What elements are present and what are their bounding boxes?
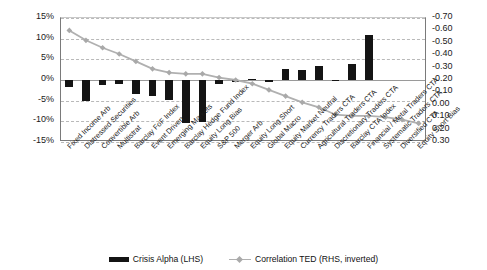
line-marker — [200, 71, 206, 77]
y-axis-right-tick: -0.50 — [432, 37, 472, 46]
y-axis-left-tick: 5% — [18, 53, 54, 62]
line-marker — [266, 87, 272, 93]
y-axis-left-tick: -5% — [18, 95, 54, 104]
legend-label-crisis-alpha: Crisis Alpha (LHS) — [133, 254, 203, 264]
legend-item-correlation-ted: Correlation TED (RHS, inverted) — [229, 254, 378, 264]
line-marker — [233, 77, 239, 83]
y-axis-left-tick: 10% — [18, 33, 54, 42]
bar-swatch-icon — [109, 257, 129, 262]
line-marker — [116, 51, 122, 57]
y-axis-right-tick: 0.30 — [432, 136, 472, 145]
crisis-alpha-chart: 15%10%5%0%-5%-10%-15% -0.70-0.60-0.50-0.… — [0, 0, 487, 270]
line-marker — [249, 81, 255, 87]
y-axis-left-tick: 15% — [18, 12, 54, 21]
line-swatch-icon — [229, 256, 251, 263]
line-marker — [150, 66, 156, 72]
y-axis-right-tick: -0.40 — [432, 49, 472, 58]
line-marker — [283, 93, 289, 99]
line-marker — [183, 71, 189, 77]
y-axis-right-tick: -0.70 — [432, 12, 472, 21]
legend-label-correlation-ted: Correlation TED (RHS, inverted) — [255, 254, 378, 264]
line-marker — [166, 70, 172, 76]
y-axis-right-tick: -0.60 — [432, 24, 472, 33]
line-marker — [299, 99, 305, 105]
legend-item-crisis-alpha: Crisis Alpha (LHS) — [109, 254, 203, 264]
line-marker — [133, 59, 139, 65]
y-axis-left-tick: 0% — [18, 74, 54, 83]
line-marker — [216, 75, 222, 81]
line-marker — [100, 45, 106, 51]
y-axis-left-tick: -15% — [18, 136, 54, 145]
y-axis-right-tick: -0.30 — [432, 62, 472, 71]
chart-legend: Crisis Alpha (LHS) Correlation TED (RHS,… — [0, 254, 487, 264]
y-axis-left-tick: -10% — [18, 115, 54, 124]
